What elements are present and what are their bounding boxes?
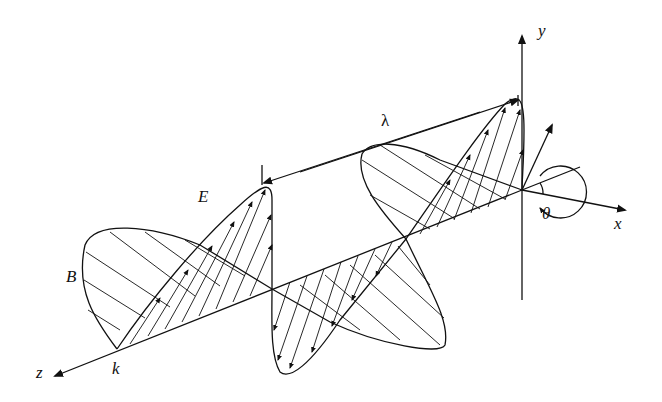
y-axis-label: y	[538, 22, 546, 39]
b-field-lobe-3	[361, 144, 522, 239]
wave-vector-label: k	[112, 360, 120, 377]
wave-drawing	[0, 0, 662, 402]
z-axis	[55, 190, 522, 376]
magnetic-field-label: B	[66, 268, 76, 285]
angle-label: θ	[542, 205, 550, 222]
z-axis-label: z	[36, 364, 43, 381]
em-wave-diagram: y x z λ E B k θ	[0, 0, 662, 402]
x-axis-label: x	[614, 215, 622, 232]
x-axis	[522, 190, 625, 210]
electric-field-label: E	[198, 188, 208, 205]
wavelength-label: λ	[381, 112, 389, 129]
